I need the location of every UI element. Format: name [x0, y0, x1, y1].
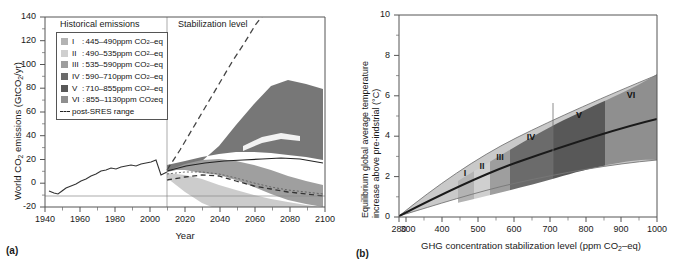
band-rect-iv	[510, 10, 553, 225]
panel-b-y-title-line2: increase above pre-indstrial (°C)	[371, 61, 382, 218]
panel-b-band-label-vi: VI	[627, 90, 636, 100]
legend-swatch-v-icon	[61, 85, 68, 92]
legend-swatch-ii-icon	[61, 50, 68, 57]
legend-swatch-i-icon	[61, 38, 68, 45]
legend-unit-post-ii: –eq	[150, 49, 163, 58]
panel-b-x-ticks	[399, 217, 657, 222]
legend-item-vi: VI : 855–1130 ppm CO2eq	[61, 94, 163, 106]
legend-unit-pre-vi: ppm CO	[121, 95, 151, 104]
legend-range-iii: 535–590	[85, 60, 116, 69]
panel-a-y-ticks	[40, 17, 45, 207]
legend-item-iii: III : 535–590 ppm CO2–eq	[61, 59, 163, 71]
legend-unit-post-vi: eq	[154, 95, 163, 104]
legend-range-iv: 590–710	[85, 72, 116, 81]
panel-b-band-label-iv: IV	[527, 132, 536, 142]
panel-b-x-title-post: –eq)	[622, 240, 641, 251]
panel-a-stabilization-level-label: Stabilization level	[178, 19, 248, 29]
legend-roman-ii: II	[72, 49, 81, 58]
panel-b-tag: (b)	[356, 248, 369, 259]
panel-b-band-label-iii: III	[496, 152, 504, 162]
legend-range-v: 710–855	[85, 84, 116, 93]
panel-a-y-title-part2: emissions (GtCO	[12, 80, 23, 155]
panel-a-emissions-chart: 140 120 100 80 60 40 20 0 -20 1940 1960 …	[0, 0, 346, 265]
panel-b-temperature-chart: I II III IV V VI	[346, 0, 692, 265]
panel-a-xtick-2000: 2000	[132, 214, 168, 224]
panel-b-xtick-600: 600	[497, 224, 531, 234]
panel-a-plot	[0, 0, 346, 265]
legend-unit-post-i: –eq	[150, 37, 163, 46]
legend-roman-iv: IV	[72, 72, 81, 81]
legend-post-sres-label: post-SRES range	[72, 107, 134, 116]
panel-b-ytick-8: 8	[364, 50, 390, 60]
legend-item-post-sres: post-SRES range	[61, 106, 163, 118]
band-iv-vi	[167, 80, 323, 172]
legend-unit-pre-i: ppm CO	[117, 37, 147, 46]
band-rect-vi	[605, 10, 658, 225]
panel-a-x-ticks	[45, 207, 325, 212]
panel-a-historical-emissions-label: Historical emissions	[60, 19, 140, 29]
legend-item-v: V : 710–855 ppm CO2–eq	[61, 82, 163, 94]
panel-a-x-axis-title: Year	[125, 230, 245, 241]
panel-a-y-title-sub1: 2	[17, 155, 24, 159]
legend-item-i: I : 445–490 ppm CO2–eq	[61, 36, 163, 48]
legend-roman-iii: III	[72, 60, 81, 69]
dashed-line-icon	[61, 108, 68, 115]
panel-a-ytick-neg20: -20	[8, 201, 36, 211]
panel-a-legend: I : 445–490 ppm CO2–eq II : 490–535 ppm …	[56, 32, 168, 120]
band-rect-iii	[490, 10, 510, 225]
panel-a-xtick-1940: 1940	[27, 214, 63, 224]
panel-a-xtick-2100: 2100	[307, 214, 343, 224]
historical-emissions-line	[49, 160, 167, 194]
legend-unit-pre-iv: ppm CO	[117, 72, 147, 81]
legend-unit-pre-ii: ppm CO	[117, 49, 147, 58]
legend-unit-post-v: –eq	[150, 84, 163, 93]
panel-b-x-minor-ticks	[424, 217, 639, 221]
panel-b-y-title-line1: Equilibrium global average temperature	[360, 61, 371, 218]
panel-b-xtick-700: 700	[533, 224, 567, 234]
panel-b-x-title-pre: GHG concentration stabilization level (p…	[421, 240, 618, 251]
climate-stabilization-figure: 140 120 100 80 60 40 20 0 -20 1940 1960 …	[0, 0, 692, 265]
panel-a-y-axis-title: World CO2 emissions (GtCO2/yr)	[12, 62, 24, 200]
panel-a-xtick-2040: 2040	[202, 214, 238, 224]
panel-b-xtick-300: 300	[391, 224, 425, 234]
panel-a-xtick-1980: 1980	[97, 214, 133, 224]
panel-b-y-axis-title: Equilibrium global average temperature i…	[360, 61, 382, 218]
panel-a-y-title-part3: /yr)	[12, 62, 23, 76]
panel-b-band-label-i: I	[464, 168, 467, 178]
legend-unit-post-iii: –eq	[150, 60, 163, 69]
legend-item-ii: II : 490–535 ppm CO2–eq	[61, 48, 163, 60]
panel-b-ytick-10: 10	[364, 9, 390, 19]
panel-a-xtick-2020: 2020	[167, 214, 203, 224]
legend-unit-pre-iii: ppm CO	[117, 60, 147, 69]
legend-range-ii: 490–535	[85, 49, 116, 58]
panel-b-band-label-ii: II	[479, 161, 484, 171]
legend-unit-post-iv: –eq	[150, 72, 163, 81]
legend-unit-pre-v: ppm CO	[117, 84, 147, 93]
panel-a-xtick-2080: 2080	[272, 214, 308, 224]
panel-a-y-title-sub2: 2	[17, 76, 24, 80]
panel-a-xtick-2060: 2060	[237, 214, 273, 224]
panel-a-tag: (a)	[6, 245, 18, 256]
legend-swatch-iv-icon	[61, 73, 68, 80]
panel-b-xtick-400: 400	[425, 224, 459, 234]
panel-a-ytick-140: 140	[8, 11, 36, 21]
legend-item-iv: IV : 590–710 ppm CO2–eq	[61, 71, 163, 83]
legend-range-i: 445–490	[85, 37, 116, 46]
panel-a-ytick-120: 120	[8, 35, 36, 45]
legend-range-vi: 855–1130	[86, 95, 121, 104]
panel-b-xtick-900: 900	[604, 224, 638, 234]
panel-b-band-label-v: V	[576, 110, 582, 120]
panel-b-xtick-500: 500	[461, 224, 495, 234]
legend-swatch-iii-icon	[61, 61, 68, 68]
panel-b-xtick-1000: 1000	[640, 224, 674, 234]
panel-b-x-axis-title: GHG concentration stabilization level (p…	[391, 240, 671, 252]
panel-b-xtick-800: 800	[569, 224, 603, 234]
band-rect-i	[458, 10, 474, 225]
panel-a-y-title-part1: World CO	[12, 158, 23, 200]
panel-a-xtick-1960: 1960	[62, 214, 98, 224]
legend-roman-v: V	[72, 84, 81, 93]
legend-roman-vi: VI	[72, 95, 81, 104]
legend-roman-i: I	[72, 37, 81, 46]
legend-swatch-vi-icon	[61, 96, 68, 103]
